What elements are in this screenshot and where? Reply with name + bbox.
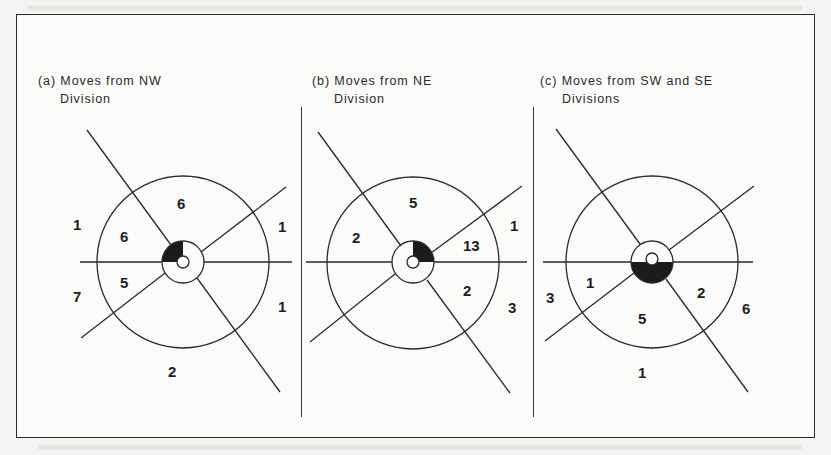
panel-a-counts: 6 6 5 1 7 1 1 2: [73, 195, 286, 380]
panel-b-count-outer-east-lower: 3: [508, 299, 516, 316]
panel-c-count-inner-east-lower: 2: [697, 284, 705, 301]
panel-b-sw-ray: [310, 274, 395, 342]
panel-b-count-inner-east-upper: 13: [463, 237, 480, 254]
panel-c-nw-ray: [556, 129, 640, 244]
panel-c-count-inner-west-lower: 1: [586, 274, 594, 291]
panel-a-count-inner-west-upper: 6: [120, 228, 128, 245]
panel-a-diagram: [80, 130, 292, 392]
panel-a-nw-ray: [87, 130, 171, 245]
panel-b-diagram: [306, 132, 527, 393]
panel-c-diagram: [543, 129, 754, 392]
panel-a-center-hole: [177, 256, 189, 268]
panel-a-count-outer-east-lower: 1: [278, 298, 286, 315]
panel-b-count-inner-west-upper: 2: [352, 229, 360, 246]
panel-c-count-outer-south: 1: [638, 364, 646, 381]
panel-c-ne-ray: [669, 186, 754, 250]
panel-a-count-outer-east-upper: 1: [278, 218, 286, 235]
panel-c-counts: 1 5 2 3 6 1: [546, 274, 750, 381]
panel-c-center-hole: [646, 253, 658, 265]
panel-c-count-outer-west-lower: 3: [546, 289, 554, 306]
panel-a-count-inner-north: 6: [177, 195, 185, 212]
panel-c-count-outer-east-lower: 6: [742, 300, 750, 317]
panel-c-count-inner-south: 5: [638, 310, 646, 327]
panel-b-count-inner-north: 5: [409, 194, 417, 211]
panel-a-count-outer-south: 2: [168, 363, 176, 380]
panel-b-count-outer-east-upper: 1: [510, 217, 518, 234]
migration-diagrams: 6 6 5 1 7 1 1 2 5 2 13 2 1 3: [0, 0, 831, 455]
panel-a-se-ray: [197, 278, 280, 392]
panel-a-count-inner-west-lower: 5: [120, 274, 128, 291]
panel-c-se-ray: [666, 279, 748, 392]
panel-b-count-inner-east-lower: 2: [463, 282, 471, 299]
panel-a-count-outer-west-lower: 7: [73, 288, 81, 305]
panel-a-count-outer-west-upper: 1: [73, 216, 81, 233]
panel-b-center-hole: [407, 256, 419, 268]
panel-a-ne-ray: [201, 187, 286, 252]
